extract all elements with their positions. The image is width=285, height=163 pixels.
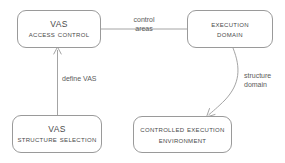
- edge-label-control-areas: control areas: [124, 15, 164, 34]
- edge-label-define-vas-line1: define VAS: [62, 74, 106, 83]
- edge-label-define-vas: define VAS: [62, 74, 106, 83]
- diagram-canvas: VAS Access Control Execution Domain VAS …: [0, 0, 285, 163]
- node-vas-structure-selection-line1: VAS: [48, 124, 65, 134]
- node-controlled-execution-environment-line2: Environment: [159, 135, 207, 145]
- node-controlled-execution-environment-line1: Controlled Execution: [140, 124, 224, 134]
- node-execution-domain[interactable]: Execution Domain: [187, 10, 273, 48]
- edge-label-control-areas-line1: control: [124, 15, 164, 24]
- edge-label-structure-domain: structure domain: [244, 71, 284, 90]
- edge-label-structure-domain-line1: structure: [244, 71, 284, 80]
- node-execution-domain-line2: Domain: [217, 29, 243, 39]
- edge-structure-domain-line: [209, 48, 238, 115]
- node-vas-structure-selection-line2: Structure Selection: [17, 134, 96, 144]
- node-vas-access-control-line2: Access Control: [29, 29, 90, 39]
- node-vas-access-control[interactable]: VAS Access Control: [17, 10, 101, 48]
- node-execution-domain-line1: Execution: [211, 19, 249, 29]
- edge-label-control-areas-line2: areas: [124, 24, 164, 33]
- edge-label-structure-domain-line2: domain: [244, 80, 284, 89]
- node-controlled-execution-environment[interactable]: Controlled Execution Environment: [133, 116, 232, 153]
- node-vas-structure-selection[interactable]: VAS Structure Selection: [12, 115, 102, 153]
- node-vas-access-control-line1: VAS: [50, 19, 67, 29]
